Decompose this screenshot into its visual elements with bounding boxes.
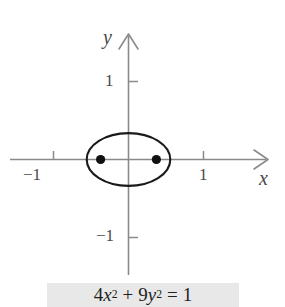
equation-variable-x: x [103,284,111,306]
x-tick-label-negative-one: −1 [23,166,41,183]
equation-variable-y: y [148,284,156,306]
equation-plus-operator: + [123,284,134,306]
coordinate-plot [0,0,285,307]
y-tick-label-negative-one: −1 [96,227,114,244]
equation-equals-operator: = [167,284,178,306]
equation-right-hand-side: 1 [183,284,193,306]
equation-caption: 4x2+9y2=1 [47,283,239,307]
focus-point-left [96,155,105,164]
focus-point-right [152,155,161,164]
equation-coefficient-x: 4 [94,284,104,306]
y-axis-label: y [103,27,112,47]
x-tick-label-positive-one: 1 [199,166,208,183]
ellipse-figure: y x 1 −1 1 −1 4x2+9y2=1 [0,0,285,307]
caption-band: 4x2+9y2=1 [47,283,239,307]
y-tick-label-positive-one: 1 [105,72,114,89]
equation-coefficient-y: 9 [138,284,148,306]
x-axis-label: x [259,168,268,188]
